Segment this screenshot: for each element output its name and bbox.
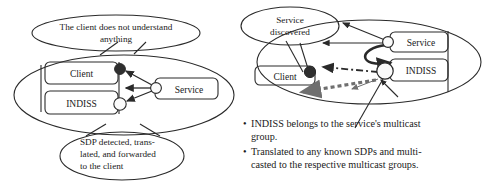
arrow-indiss-to-client-dashdot (323, 67, 378, 72)
arrow-service-announce-upper (343, 23, 385, 40)
arrow-into-indiss-port (381, 80, 398, 97)
left-scenario: Client INDISS Service (14, 15, 234, 180)
port-service (383, 37, 394, 48)
callout-service-discovered-line1: Service (276, 15, 304, 25)
bullet-2-line1: Translated to any known SDPs and multi- (251, 146, 422, 157)
port-indiss (114, 98, 126, 110)
callout-bottom-line3: to the client (80, 161, 124, 171)
bullet-1-marker: • (243, 118, 247, 129)
box-indiss-label: INDISS (406, 66, 437, 76)
callout-service-discovered-line2: discovered (270, 27, 310, 37)
callout-top-line1: The client does not understand (60, 22, 173, 32)
callout-top-tail-right (134, 42, 146, 54)
figure-root: Client INDISS Service (0, 0, 489, 184)
callout-client-does-not-understand: The client does not understand anything (32, 15, 200, 51)
box-client-label: Client (70, 69, 94, 79)
port-indiss (377, 63, 393, 79)
diagram-canvas: Client INDISS Service (0, 0, 489, 184)
callout-top-bubble (32, 15, 200, 51)
port-service (151, 83, 162, 94)
box-service: Service (155, 78, 218, 99)
box-service-label: Service (407, 38, 436, 48)
bullet-2-marker: • (243, 146, 247, 157)
bullet-indiss-multicast-group: • INDISS belongs to the service's multic… (243, 118, 421, 142)
box-service: Service (390, 32, 448, 52)
callout-bottom-line1: SDP detected, trans- (80, 137, 155, 147)
bullet-translated-sdps: • Translated to any known SDPs and multi… (243, 146, 422, 170)
box-service-label: Service (175, 85, 204, 95)
box-indiss: INDISS (390, 59, 448, 81)
callout-sdp-detected: SDP detected, trans- lated, and forwarde… (60, 132, 184, 180)
port-client (304, 66, 315, 77)
box-indiss: INDISS (45, 91, 118, 114)
arrow-service-to-client-port (126, 71, 152, 85)
box-indiss-label: INDISS (66, 99, 97, 109)
arrow-service-to-indiss-curve (365, 45, 390, 64)
arrow-service-to-indiss-port (127, 91, 152, 101)
right-scenario: Client Service INDISS (241, 7, 481, 170)
callout-service-discovered: Service discovered (241, 7, 339, 45)
arrow-indiss-to-client-dotted (302, 80, 376, 92)
bullet-1-line2: group. (251, 131, 277, 142)
box-client: Client (45, 62, 118, 84)
port-client (115, 64, 126, 75)
callout-service-discovered-bubble (241, 7, 339, 45)
bullet-1-line1: INDISS belongs to the service's multicas… (251, 118, 421, 129)
bullet-2-line2: casted to the respective multicast group… (251, 159, 418, 170)
callout-bottom-line2: lated, and forwarded (80, 149, 156, 159)
callout-top-line2: anything (100, 34, 133, 44)
box-client-label: Client (273, 72, 297, 82)
